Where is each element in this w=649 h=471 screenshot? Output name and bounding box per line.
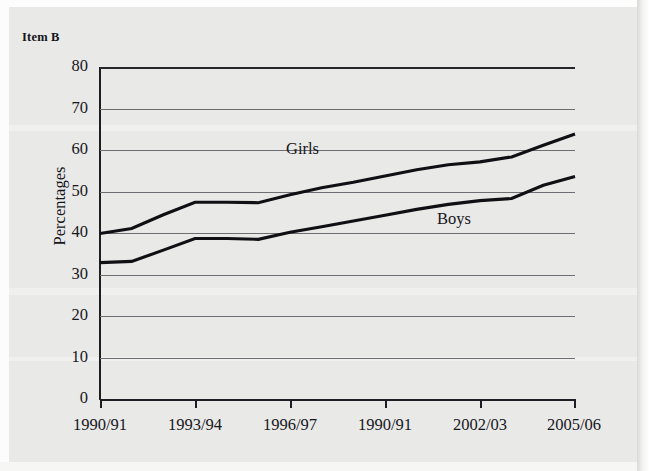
page-edge-top [0,0,649,7]
plot-area: 80 70 60 50 40 30 20 10 0 1990/91 1993/9… [100,67,575,399]
x-tick-1 [195,399,197,408]
y-tick-label-50: 50 [42,181,88,201]
x-tick-4 [480,399,482,408]
y-tick-label-80: 80 [42,56,88,76]
series-lines [100,67,575,400]
y-tick-label-40: 40 [42,222,88,242]
page-edge-left [0,0,9,471]
x-tick-5 [574,399,576,408]
y-tick-label-10: 10 [42,347,88,367]
boys-line [100,176,575,262]
y-tick-label-0: 0 [42,388,88,408]
series-label-girls: Girls [286,139,319,159]
y-tick-label-30: 30 [42,264,88,284]
y-tick-label-70: 70 [42,98,88,118]
page-edge-right [637,0,649,471]
x-tick-label-5: 2005/06 [514,415,634,435]
x-tick-2 [290,399,292,408]
page-edge-bottom [0,462,649,471]
girls-line [100,134,575,233]
series-label-boys: Boys [437,209,471,229]
page-title: Item B [22,30,60,45]
chart-page: Item B Percentages 80 70 60 50 40 30 20 … [0,0,649,471]
x-tick-0 [100,399,102,408]
y-tick-label-60: 60 [42,139,88,159]
x-tick-3 [385,399,387,408]
y-tick-label-20: 20 [42,305,88,325]
